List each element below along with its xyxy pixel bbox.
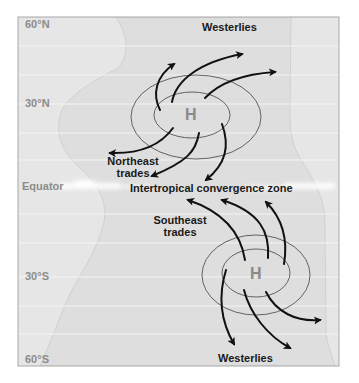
latitude-label-60s: 60°S: [25, 354, 49, 365]
latitude-label-equator: Equator: [22, 181, 64, 192]
northeast-trades-line1: Northeast: [103, 155, 163, 167]
latitude-label-30s: 30°S: [25, 271, 49, 282]
westerlies-south-label: Westerlies: [218, 352, 273, 364]
itcz-label: Intertropical convergence zone: [130, 182, 293, 194]
wind-pattern-diagram: 60°N 30°N Equator 30°S 60°S H H Westerli…: [0, 0, 359, 383]
northeast-trades-label: Northeast trades: [103, 155, 163, 179]
northeast-trades-line2: trades: [103, 167, 163, 179]
latitude-label-60n: 60°N: [25, 19, 50, 30]
southeast-trades-line2: trades: [150, 226, 210, 238]
latitude-label-30n: 30°N: [25, 98, 50, 109]
southeast-trades-line1: Southeast: [150, 214, 210, 226]
south-high-pressure-label: H: [250, 266, 262, 282]
southeast-trades-label: Southeast trades: [150, 214, 210, 238]
north-high-pressure-label: H: [185, 107, 197, 123]
westerlies-north-label: Westerlies: [202, 21, 257, 33]
